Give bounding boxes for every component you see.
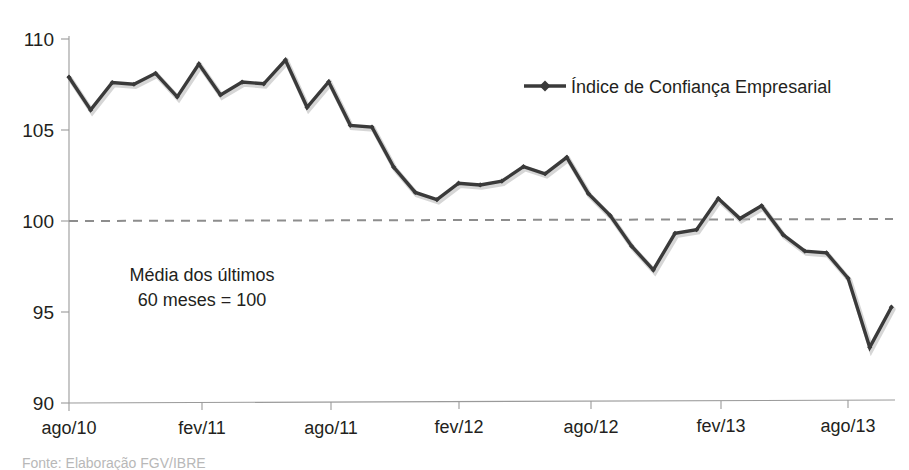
chart-legend: Índice de Confiança Empresarial [524, 77, 831, 97]
legend-diamond-marker-icon [540, 81, 551, 92]
y-tick-label: 95 [33, 302, 54, 323]
x-tick-label: ago/10 [41, 418, 96, 438]
y-tick-label: 105 [22, 120, 54, 141]
x-tick-label: ago/11 [304, 418, 358, 438]
x-axis-line [69, 400, 895, 403]
y-axis-ticks [61, 39, 69, 403]
x-tick-label: fev/13 [696, 416, 745, 436]
x-axis-labels: ago/10 fev/11 ago/11 fev/12 ago/12 fev/1… [41, 416, 875, 438]
x-tick-label: ago/13 [820, 416, 875, 436]
business-confidence-line-chart: 110 105 100 95 90 ago/10 fev/11 ago/11 f… [0, 0, 909, 470]
legend-entry-label: Índice de Confiança Empresarial [571, 77, 831, 97]
x-tick-label: fev/12 [434, 417, 483, 437]
chart-container: 110 105 100 95 90 ago/10 fev/11 ago/11 f… [0, 0, 909, 470]
annotation-line-1: Média dos últimos [129, 265, 274, 285]
mean-annotation: Média dos últimos 60 meses = 100 [129, 265, 274, 310]
annotation-line-2: 60 meses = 100 [138, 290, 267, 310]
y-tick-label: 90 [33, 393, 54, 414]
y-tick-label: 110 [24, 29, 54, 50]
source-note: Fonte: Elaboração FGV/IBRE [22, 455, 206, 470]
y-axis-labels: 110 105 100 95 90 [22, 29, 54, 414]
y-tick-label: 100 [22, 211, 54, 232]
x-tick-label: fev/11 [178, 418, 226, 438]
x-tick-label: ago/12 [563, 417, 618, 437]
x-axis-ticks [69, 400, 848, 411]
